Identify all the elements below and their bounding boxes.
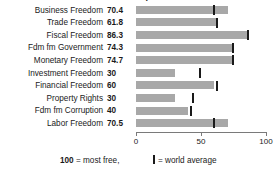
chart-row: Labor Freedom70.5: [0, 119, 278, 132]
category-label: Trade Freedom: [0, 18, 103, 27]
chart-row: Fiscal Freedom86.3: [0, 31, 278, 44]
value-label: 74.3: [107, 43, 123, 52]
chart-legend: 100 = most free, = world average: [0, 155, 278, 169]
legend-most-free-value: 100: [60, 156, 74, 165]
category-label: Fiscal Freedom: [0, 31, 103, 40]
chart-row: Financial Freedom60: [0, 81, 278, 94]
x-axis-tick: [201, 132, 202, 136]
chart-row: Trade Freedom61.8: [0, 18, 278, 31]
x-axis-tick-label: 0: [121, 137, 151, 146]
category-label: Monetary Freedom: [0, 56, 103, 65]
world-average-marker: [232, 43, 234, 53]
value-bar: [136, 94, 175, 102]
category-label: Financial Freedom: [0, 81, 103, 90]
value-label: 70.4: [107, 6, 123, 15]
value-label: 30: [107, 69, 116, 78]
world-average-marker-icon: [153, 155, 155, 164]
x-axis-tick: [136, 132, 137, 136]
chart-row: Investment Freedom30: [0, 69, 278, 82]
value-bar: [136, 56, 233, 64]
x-axis-tick: [266, 132, 267, 136]
value-label: 40: [107, 106, 116, 115]
world-average-marker: [216, 81, 218, 91]
economic-freedom-chart: Index of Economic Freedom components Bus…: [0, 0, 278, 173]
value-label: 70.5: [107, 119, 123, 128]
value-bar: [136, 31, 248, 39]
category-label: Labor Freedom: [0, 119, 103, 128]
legend-world-average: = world average: [153, 155, 216, 167]
category-label: Investment Freedom: [0, 69, 103, 78]
x-axis-tick-label: 50: [186, 137, 216, 146]
world-average-marker: [213, 5, 215, 15]
chart-row: Fdm fm Corruption40: [0, 106, 278, 119]
chart-row: Monetary Freedom74.7: [0, 56, 278, 69]
world-average-marker: [192, 93, 194, 103]
world-average-marker: [199, 68, 201, 78]
category-label: Fdm fm Corruption: [0, 106, 103, 115]
category-label: Business Freedom: [0, 6, 103, 15]
world-average-marker: [213, 118, 215, 128]
legend-most-free-text: = most free,: [74, 156, 120, 165]
value-label: 74.7: [107, 56, 123, 65]
world-average-marker: [247, 30, 249, 40]
legend-world-average-text: = world average: [158, 156, 216, 165]
value-bar: [136, 81, 214, 89]
x-axis-tick-label: 100: [251, 137, 278, 146]
chart-row: Property Rights30: [0, 94, 278, 107]
value-bar: [136, 44, 233, 52]
value-label: 61.8: [107, 18, 123, 27]
value-label: 86.3: [107, 31, 123, 40]
category-label: Property Rights: [0, 94, 103, 103]
legend-most-free: 100 = most free,: [60, 155, 119, 167]
world-average-marker: [190, 106, 192, 116]
value-bar: [136, 69, 175, 77]
chart-row: Fdm fm Government74.3: [0, 43, 278, 56]
chart-row: Business Freedom70.4: [0, 6, 278, 19]
value-bar: [136, 18, 216, 26]
chart-title: Index of Economic Freedom components: [4, 0, 181, 1]
world-average-marker: [232, 55, 234, 65]
world-average-marker: [216, 18, 218, 28]
value-label: 30: [107, 94, 116, 103]
value-bar: [136, 107, 188, 115]
category-label: Fdm fm Government: [0, 43, 103, 52]
value-label: 60: [107, 81, 116, 90]
